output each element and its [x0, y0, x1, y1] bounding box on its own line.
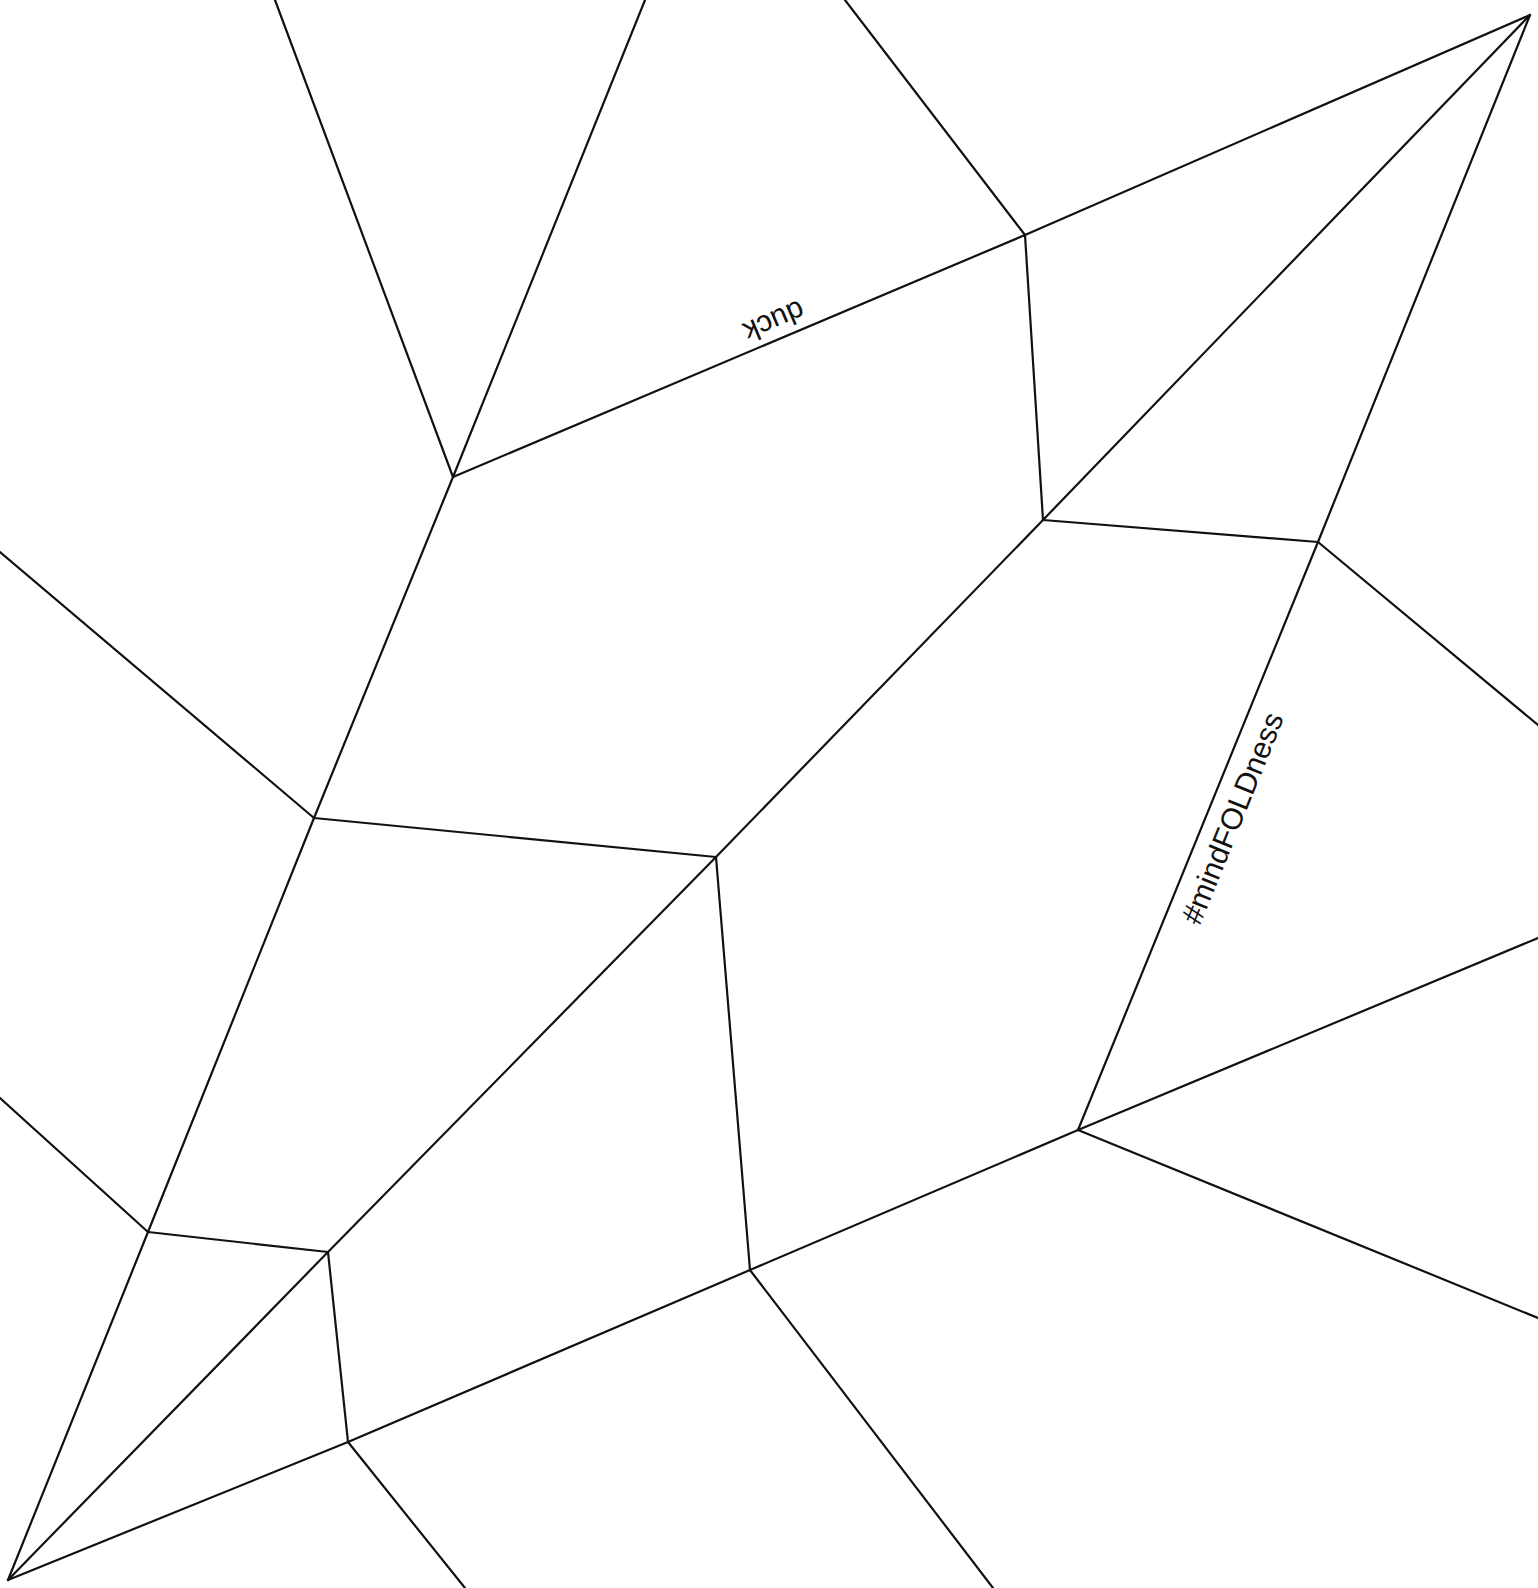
- fold-lines: [0, 0, 1538, 1588]
- fold-line: [750, 1130, 1078, 1270]
- fold-line: [348, 1270, 750, 1442]
- fold-line: [1078, 542, 1318, 1130]
- fold-line: [8, 1252, 328, 1580]
- fold-line: [148, 1232, 328, 1252]
- fold-line: [1043, 15, 1530, 520]
- fold-line: [1025, 235, 1043, 520]
- fold-line: [1318, 542, 1538, 725]
- fold-line: [314, 477, 453, 818]
- fold-line: [328, 1252, 348, 1442]
- fold-line: [8, 1232, 148, 1580]
- fold-line: [453, 0, 645, 477]
- fold-line: [348, 1442, 465, 1588]
- fold-line: [1078, 1130, 1538, 1318]
- fold-pattern-diagram: duck #mindFOLDness: [0, 0, 1538, 1588]
- fold-line: [314, 818, 716, 857]
- fold-line: [453, 235, 1025, 477]
- fold-line: [716, 857, 750, 1270]
- fold-line: [716, 520, 1043, 857]
- fold-line: [328, 857, 716, 1252]
- fold-line: [0, 1098, 148, 1232]
- fold-line: [1043, 520, 1318, 542]
- fold-line: [1078, 938, 1538, 1130]
- fold-line: [275, 0, 453, 477]
- fold-line: [8, 1442, 348, 1580]
- fold-line: [750, 1270, 993, 1588]
- fold-line: [845, 0, 1025, 235]
- fold-line: [0, 552, 314, 818]
- fold-line: [148, 818, 314, 1232]
- mindfoldness-label: #mindFOLDness: [1175, 708, 1290, 929]
